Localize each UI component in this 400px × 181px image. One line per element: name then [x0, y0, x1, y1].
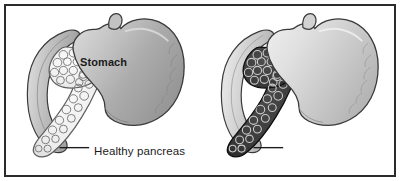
pancreatitis-comparison-figure: Stomach Healthy pancreas: [0, 0, 400, 181]
stomach-organ: [73, 14, 184, 126]
label-stomach-healthy: Stomach: [80, 56, 127, 69]
figure-frame: Stomach Healthy pancreas: [4, 4, 396, 177]
stomach-organ: [267, 14, 378, 126]
panel-healthy-pancreas: Stomach Healthy pancreas: [6, 6, 200, 175]
panel-inflamed-pancreas: Inflamed pancreas (pancreatitis): [200, 6, 394, 175]
esophagus-stub: [109, 14, 122, 30]
esophagus-stub: [303, 14, 316, 30]
label-healthy-pancreas: Healthy pancreas: [94, 145, 185, 159]
inflamed-anatomy-illustration: [200, 6, 394, 175]
